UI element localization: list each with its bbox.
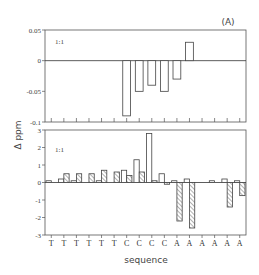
bar-hatched xyxy=(177,183,182,222)
bar-hatched xyxy=(189,183,194,229)
bar-hatched xyxy=(114,172,119,183)
bar-open xyxy=(121,170,126,182)
x-category-label: A xyxy=(199,239,205,248)
bar-open xyxy=(59,179,64,183)
y-tick-label: 3 xyxy=(38,127,42,135)
ratio-label-top: 1:1 xyxy=(55,38,64,46)
y-tick-label: -2 xyxy=(35,214,41,222)
y-tick-label: 1 xyxy=(38,162,42,170)
bar-hatched xyxy=(127,176,132,183)
bar-hatched xyxy=(227,183,232,208)
chart-figure: 0.050-0.05-0.1 3210-1-2-3TTTTTTCCCCAAAAA… xyxy=(0,0,259,275)
bar-hatched xyxy=(139,172,144,183)
bar-open xyxy=(186,42,194,60)
bottom-panel: 3210-1-2-3TTTTTTCCCCAAAAAA xyxy=(35,127,246,249)
bar-hatched xyxy=(164,183,169,185)
bar-open xyxy=(123,61,131,116)
bar-open xyxy=(184,179,189,183)
y-tick-label: 0.05 xyxy=(29,27,42,35)
y-tick-label: 0 xyxy=(38,57,42,65)
y-axis-label: Δ ppm xyxy=(13,120,23,149)
bar-hatched xyxy=(240,183,245,196)
y-tick-label: -3 xyxy=(35,232,41,240)
ratio-label-bottom: 1:1 xyxy=(55,146,64,154)
y-tick-label: 2 xyxy=(38,144,42,152)
bar-open xyxy=(135,61,143,92)
x-axis-label: sequence xyxy=(124,255,168,265)
panel-label: (A) xyxy=(221,17,234,27)
bar-hatched xyxy=(102,170,107,182)
x-category-label: A xyxy=(212,239,218,248)
bar-hatched xyxy=(76,174,81,183)
y-tick-label: -0.1 xyxy=(30,119,42,127)
bar-open xyxy=(46,181,51,183)
top-plot-frame xyxy=(45,30,246,122)
bar-hatched xyxy=(64,174,69,183)
x-category-label: A xyxy=(187,239,193,248)
x-category-label: A xyxy=(237,239,243,248)
bar-open xyxy=(159,174,164,183)
bar-open xyxy=(147,134,152,183)
bar-open xyxy=(96,181,101,183)
bar-open xyxy=(134,160,139,183)
bar-open xyxy=(209,181,214,183)
x-category-label: C xyxy=(124,239,129,248)
x-category-label: A xyxy=(174,239,180,248)
bar-hatched xyxy=(152,181,157,183)
bar-open xyxy=(222,179,227,183)
y-tick-label: -0.05 xyxy=(26,88,41,96)
x-category-label: C xyxy=(137,239,142,248)
bar-hatched xyxy=(89,174,94,183)
x-category-label: T xyxy=(49,239,54,248)
x-category-label: T xyxy=(87,239,92,248)
bar-open xyxy=(234,181,239,183)
bar-open xyxy=(172,181,177,183)
y-tick-label: 0 xyxy=(38,179,42,187)
x-category-label: T xyxy=(112,239,117,248)
bar-open xyxy=(160,61,168,92)
x-category-label: C xyxy=(149,239,154,248)
x-category-label: A xyxy=(224,239,230,248)
bar-open xyxy=(148,61,156,86)
y-tick-label: -1 xyxy=(35,197,41,205)
x-category-label: T xyxy=(99,239,104,248)
x-category-label: T xyxy=(61,239,66,248)
x-category-label: C xyxy=(162,239,167,248)
bar-open xyxy=(71,181,76,183)
x-category-label: T xyxy=(74,239,79,248)
bar-open xyxy=(173,61,181,79)
